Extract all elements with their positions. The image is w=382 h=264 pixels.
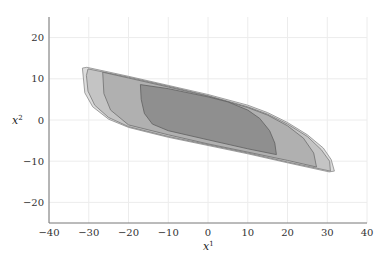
y-axis-label: x2 bbox=[12, 114, 23, 127]
x-tick-label: 20 bbox=[281, 227, 294, 238]
y-tick-label: −10 bbox=[23, 156, 44, 167]
x-tick-labels: −40−30−20−10010203040 bbox=[38, 227, 373, 238]
y-tick-label: 10 bbox=[31, 73, 44, 84]
x-tick-label: 30 bbox=[321, 227, 334, 238]
x-tick-label: −30 bbox=[78, 227, 99, 238]
x-tick-label: −10 bbox=[158, 227, 179, 238]
y-tick-label: 0 bbox=[38, 115, 44, 126]
x-axis-label: x1 bbox=[203, 240, 214, 253]
x-tick-label: −20 bbox=[118, 227, 139, 238]
x-tick-label: 40 bbox=[361, 227, 374, 238]
x-tick-label: −40 bbox=[38, 227, 59, 238]
x-tick-label: 0 bbox=[205, 227, 211, 238]
y-tick-label: 20 bbox=[31, 32, 44, 43]
x-tick-label: 10 bbox=[241, 227, 254, 238]
y-tick-labels: −20−1001020 bbox=[23, 32, 44, 208]
chart: −40−30−20−10010203040 −20−1001020 x1 x2 bbox=[0, 0, 382, 264]
y-tick-label: −20 bbox=[23, 197, 44, 208]
